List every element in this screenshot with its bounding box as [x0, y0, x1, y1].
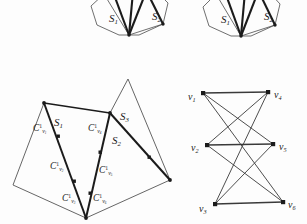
chain-node-middle-upper [99, 151, 102, 154]
label-chain-v5: C1v5 [99, 166, 112, 177]
label-s1-top-left: S1 [109, 13, 118, 26]
top-left-outer-edge-a [91, 0, 104, 25]
top-left-apex-node [127, 33, 130, 36]
chain-node-middle-lower [89, 192, 92, 195]
label-s2-top-left: S2 [152, 11, 161, 24]
graph-node-v1 [201, 91, 205, 95]
label-s3-polygon: S3 [120, 111, 129, 124]
polygon-vertex-apex [84, 216, 88, 220]
edge-v3-v5 [215, 144, 273, 204]
polygon-vertex-middle-reflex [108, 111, 112, 115]
top-right-thin-spoke-2 [241, 25, 275, 36]
label-s2-polygon: S2 [112, 135, 121, 148]
label-vertex-v2: v2 [191, 143, 199, 154]
label-chain-v4: C1v4 [88, 124, 101, 135]
bipartite-graph-edges [203, 92, 283, 204]
chain-node-left-lower [73, 180, 76, 183]
polygon-vertex-left-reflex [42, 101, 46, 105]
top-right-outer-edge-a [203, 0, 216, 26]
label-vertex-v5: v5 [279, 142, 287, 153]
polygon-vertex-right [168, 178, 172, 182]
label-chain-v6: C1v6 [93, 194, 106, 205]
label-chain-v1: C1v1 [33, 124, 46, 135]
graph-node-v4 [266, 90, 270, 94]
label-vertex-v6: v6 [288, 200, 296, 211]
top-left-thin-spoke-2 [129, 24, 163, 35]
top-left-right-node [161, 22, 164, 25]
label-chain-v3: C1v3 [62, 194, 75, 205]
top-right-apex-node [239, 34, 242, 37]
label-chain-v2: C1v2 [50, 162, 63, 173]
graph-node-v5 [271, 142, 275, 146]
graph-node-v2 [205, 143, 209, 147]
label-s1-polygon: S1 [54, 117, 63, 130]
chain-node-right [148, 156, 151, 159]
edge-v3-v6 [215, 202, 283, 204]
polygon-top-edge [44, 103, 110, 113]
label-s2-top-right: S2 [264, 11, 273, 24]
graph-node-v6 [281, 200, 285, 204]
figure-vector-layer [0, 0, 307, 224]
label-vertex-v4: v4 [274, 90, 282, 101]
label-vertex-v1: v1 [188, 92, 196, 103]
edge-v1-v4 [203, 92, 268, 93]
edge-v3-v4 [215, 92, 268, 204]
edge-v2-v5 [207, 144, 273, 145]
edge-v2-v4 [207, 92, 268, 145]
label-s1-top-right: S1 [221, 14, 230, 27]
edge-v1-v6 [203, 93, 283, 202]
chain-node-left-upper [57, 135, 60, 138]
graph-node-v3 [213, 202, 217, 206]
label-vertex-v3: v3 [199, 204, 207, 215]
figure-canvas: S1 S2 S1 S2 S1 S2 S3 C1v1 C1v2 C1v3 C1v4… [0, 0, 307, 224]
top-right-right-node [273, 23, 276, 26]
